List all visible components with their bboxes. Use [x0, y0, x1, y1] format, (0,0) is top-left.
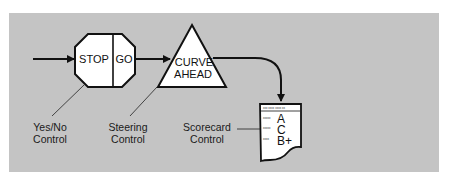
steering-line2: Control [100, 133, 156, 145]
yes-no-control-label: Yes/No Control [25, 121, 75, 145]
curve-text: CURVE [175, 56, 213, 68]
ahead-text: AHEAD [174, 68, 212, 80]
scorecard-control-label: Scorecard Control [176, 121, 238, 145]
yes-no-line1: Yes/No [25, 121, 75, 133]
stop-text: STOP [79, 53, 109, 65]
scorecard-row-2-label: xxxxx [263, 126, 271, 130]
curve-to-scorecard-arrow [213, 58, 281, 101]
go-text: GO [115, 53, 133, 65]
scorecard-row-1-label: xxxxx [263, 116, 271, 120]
control-types-diagram: STOP GO CURVE AHEAD xxx xxxx xxxx xx xxx… [0, 0, 449, 183]
stop-go-octagon: STOP GO [75, 34, 135, 87]
scorecard-header-text: xxx xxxx xxxx xx [263, 106, 286, 110]
scorecard-row-3-label: xxxx [263, 137, 270, 141]
steering-line1: Steering [100, 121, 156, 133]
scorecard-line1: Scorecard [176, 121, 238, 133]
scorecard-row-3-grade: B+ [277, 134, 292, 148]
steering-control-label: Steering Control [100, 121, 156, 145]
curve-ahead-triangle: CURVE AHEAD [158, 25, 226, 87]
scorecard-line2: Control [176, 133, 238, 145]
yes-no-line2: Control [25, 133, 75, 145]
yes-no-leader-line [52, 85, 84, 116]
steering-leader-line [130, 87, 157, 116]
scorecard-document: xxx xxxx xxxx xx xxxxx A xxxxx C xxxx B+ [260, 104, 301, 161]
